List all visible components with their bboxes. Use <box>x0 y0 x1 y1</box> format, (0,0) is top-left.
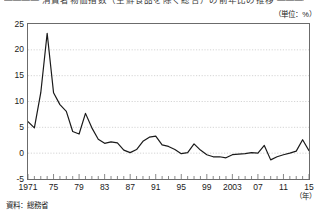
chart-title: ―――― 消費者物価指数（生鮮食品を除く総合）の前年比の推移 ―――― <box>4 0 304 5</box>
x-tick-label: 15 <box>304 182 313 192</box>
y-tick-label: 10 <box>2 97 24 106</box>
x-tick-label: 07 <box>253 182 262 192</box>
x-tick-label: 2003 <box>223 182 242 192</box>
year-axis-note: （年） <box>295 192 316 201</box>
x-tick-label: 91 <box>151 182 160 192</box>
data-series-line <box>28 33 309 160</box>
x-axis-labels: 1971757983879195992003071115 <box>0 182 322 196</box>
line-chart-svg <box>28 24 309 179</box>
x-tick-label: 11 <box>279 182 288 192</box>
plot-area <box>27 23 310 180</box>
x-tick-label: 75 <box>49 182 58 192</box>
chart-figure: ―――― 消費者物価指数（生鮮食品を除く総合）の前年比の推移 ―――― （単位：… <box>0 0 322 216</box>
x-tick-label: 99 <box>202 182 211 192</box>
y-tick-label: 25 <box>2 20 24 29</box>
y-tick-label: 15 <box>2 71 24 80</box>
x-tick-label: 87 <box>125 182 134 192</box>
x-tick-label: 79 <box>74 182 83 192</box>
y-tick-label: 0 <box>2 149 24 158</box>
x-tick-label: 1971 <box>19 182 38 192</box>
x-tick-label: 83 <box>100 182 109 192</box>
y-tick-label: 5 <box>2 123 24 132</box>
unit-note: （単位：%） <box>274 10 316 19</box>
y-tick-label: 20 <box>2 45 24 54</box>
x-tick-label: 95 <box>177 182 186 192</box>
source-note: 資料：総務省 <box>6 201 48 211</box>
